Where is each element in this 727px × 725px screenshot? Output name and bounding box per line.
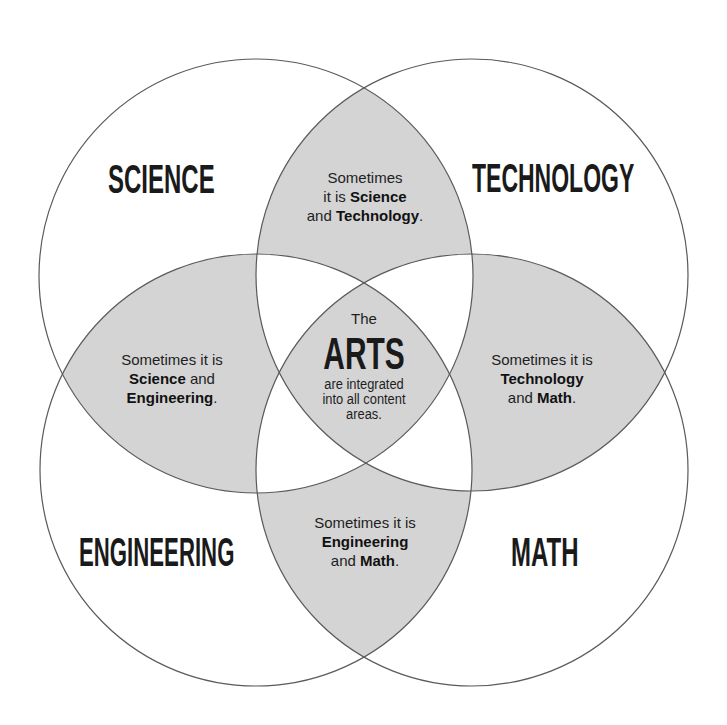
overlap-text: Sometimes it is <box>491 351 593 368</box>
overlap-text-bold: Science <box>350 188 407 205</box>
overlap-text-bold: Technology <box>336 207 419 224</box>
label-science: SCIENCE <box>108 159 215 199</box>
overlap-text: it is <box>323 188 350 205</box>
label-engineering: ENGINEERING <box>79 532 234 572</box>
overlap-text: and <box>508 389 537 406</box>
center-title: ARTS <box>323 332 404 376</box>
overlap-text: Sometimes it is <box>121 351 223 368</box>
overlap-text: and <box>331 552 360 569</box>
overlap-text: Sometimes <box>327 169 402 186</box>
overlap-text: and <box>307 207 336 224</box>
label-math: MATH <box>511 532 579 572</box>
overlap-text: . <box>419 207 423 224</box>
overlap-text-bold: Engineering <box>127 389 214 406</box>
overlap-science-technology: Sometimes it is Science and Technology. <box>307 168 423 225</box>
overlap-text-bold: Science <box>129 370 186 387</box>
center-line-2: into all content <box>322 392 405 407</box>
overlap-text: . <box>213 389 217 406</box>
overlap-text: and <box>186 370 215 387</box>
center-line-3: areas. <box>322 407 405 422</box>
label-technology: TECHNOLOGY <box>472 158 634 198</box>
overlap-text-bold: Engineering <box>322 533 409 550</box>
overlap-technology-math: Sometimes it is Technology and Math. <box>491 350 593 407</box>
overlap-text-bold: Math <box>537 389 572 406</box>
overlap-text: Sometimes it is <box>314 514 416 531</box>
overlap-text: . <box>395 552 399 569</box>
center-line-1: are integrated <box>322 377 405 392</box>
overlap-science-engineering: Sometimes it is Science and Engineering. <box>121 350 223 407</box>
overlap-text: . <box>572 389 576 406</box>
center-description: are integrated into all content areas. <box>322 377 405 422</box>
overlap-text-bold: Math <box>360 552 395 569</box>
overlap-engineering-math: Sometimes it is Engineering and Math. <box>314 513 416 570</box>
center-pre-text: The <box>351 311 377 327</box>
overlap-text-bold: Technology <box>500 370 583 387</box>
